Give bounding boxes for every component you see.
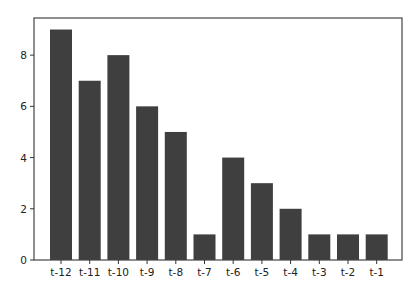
bar-chart: 02468 t-12t-11t-10t-9t-8t-7t-6t-5t-4t-3t… xyxy=(0,0,419,295)
x-tick-label: t-5 xyxy=(255,266,270,278)
bar-t-11 xyxy=(79,81,101,260)
x-tick-label: t-2 xyxy=(341,266,356,278)
x-tick-label: t-8 xyxy=(169,266,184,278)
x-tick-label: t-9 xyxy=(140,266,155,278)
x-tick-label: t-1 xyxy=(369,266,384,278)
x-tick-label: t-7 xyxy=(197,266,212,278)
bars-group xyxy=(50,30,388,260)
y-axis: 02468 xyxy=(20,49,34,266)
y-tick-label: 6 xyxy=(20,100,27,112)
x-tick-label: t-3 xyxy=(312,266,327,278)
y-tick-label: 4 xyxy=(20,152,27,164)
bar-t-10 xyxy=(107,55,129,260)
y-tick-label: 8 xyxy=(20,49,27,61)
x-tick-label: t-10 xyxy=(108,266,129,278)
bar-t-6 xyxy=(222,158,244,260)
y-tick-label: 2 xyxy=(20,203,27,215)
bar-t-7 xyxy=(194,234,216,260)
x-axis: t-12t-11t-10t-9t-8t-7t-6t-5t-4t-3t-2t-1 xyxy=(50,260,384,278)
bar-t-8 xyxy=(165,132,187,260)
bar-t-9 xyxy=(136,106,158,260)
bar-t-5 xyxy=(251,183,273,260)
bar-t-2 xyxy=(337,234,359,260)
bar-t-4 xyxy=(280,209,302,260)
x-tick-label: t-11 xyxy=(79,266,100,278)
x-tick-label: t-4 xyxy=(283,266,298,278)
bar-t-12 xyxy=(50,30,72,260)
bar-t-1 xyxy=(366,234,388,260)
y-tick-label: 0 xyxy=(20,254,27,266)
x-tick-label: t-6 xyxy=(226,266,241,278)
x-tick-label: t-12 xyxy=(50,266,71,278)
bar-t-3 xyxy=(308,234,330,260)
